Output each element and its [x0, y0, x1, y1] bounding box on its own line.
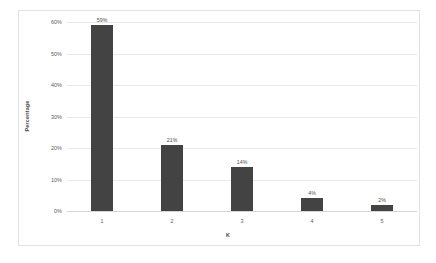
- bar-value-label: 4%: [308, 190, 316, 196]
- bar-chart-figure: Percentage 0%10%20%30%40%50%60% 59%21%14…: [0, 0, 436, 263]
- bar-value-label: 59%: [97, 17, 108, 23]
- bar: [161, 145, 183, 211]
- bar-value-label: 2%: [378, 197, 386, 203]
- bar: [301, 198, 323, 211]
- x-axis-title: K: [226, 232, 230, 238]
- bar-column: 2%: [371, 22, 393, 211]
- y-axis-tick-label: 60%: [51, 19, 62, 25]
- bar-column: 21%: [161, 22, 183, 211]
- x-axis-tick-label: 4: [311, 218, 314, 224]
- bar-column: 14%: [231, 22, 253, 211]
- bar: [371, 205, 393, 211]
- y-axis-tick-label: 30%: [51, 114, 62, 120]
- y-axis-tick-label: 40%: [51, 82, 62, 88]
- bar-column: 59%: [91, 22, 113, 211]
- bar-value-label: 21%: [167, 137, 178, 143]
- y-axis-tick-label: 20%: [51, 145, 62, 151]
- x-axis-tick-label: 2: [171, 218, 174, 224]
- bar-column: 4%: [301, 22, 323, 211]
- x-axis-tick-label: 3: [241, 218, 244, 224]
- plot-area: 0%10%20%30%40%50%60% 59%21%14%4%2% 12345: [67, 22, 417, 211]
- x-axis-line: [67, 211, 417, 212]
- y-axis-title: Percentage: [24, 100, 30, 131]
- bar: [91, 25, 113, 211]
- bar: [231, 167, 253, 211]
- y-axis-tick-label: 50%: [51, 51, 62, 57]
- x-axis-tick-label: 5: [381, 218, 384, 224]
- x-axis-tick-label: 1: [101, 218, 104, 224]
- y-axis-tick-label: 0%: [54, 208, 62, 214]
- bar-series: 59%21%14%4%2%: [67, 22, 417, 211]
- bar-value-label: 14%: [237, 159, 248, 165]
- y-axis-tick-label: 10%: [51, 177, 62, 183]
